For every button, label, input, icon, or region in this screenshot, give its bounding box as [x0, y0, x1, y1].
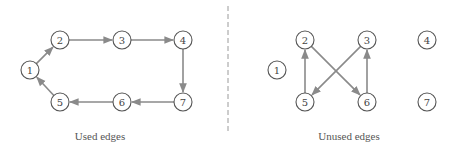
node-label: 4: [424, 35, 430, 46]
unused-edges-group: [305, 46, 367, 95]
node-used-3: 3: [113, 31, 131, 49]
node-label: 3: [364, 35, 370, 46]
node-unused-7: 7: [418, 93, 436, 111]
node-used-7: 7: [174, 93, 192, 111]
node-unused-1: 1: [268, 61, 286, 79]
graph-diagram: 1234567 Used edges 1234567 Unused edges: [0, 0, 456, 150]
node-label: 2: [57, 35, 63, 46]
node-unused-3: 3: [358, 31, 376, 49]
node-used-6: 6: [113, 93, 131, 111]
node-label: 6: [364, 97, 370, 108]
unused-edges-caption: Unused edges: [318, 130, 379, 142]
node-label: 3: [119, 35, 125, 46]
node-unused-4: 4: [418, 31, 436, 49]
used-edges-panel: 1234567 Used edges: [21, 31, 192, 142]
node-label: 7: [180, 97, 186, 108]
node-used-1: 1: [21, 61, 39, 79]
node-used-4: 4: [174, 31, 192, 49]
node-unused-2: 2: [296, 31, 314, 49]
used-edges-caption: Used edges: [75, 130, 125, 142]
node-label: 7: [424, 97, 430, 108]
node-label: 5: [302, 97, 308, 108]
node-label: 4: [180, 35, 186, 46]
edge-used-1-to-2: [36, 47, 53, 64]
node-label: 1: [274, 65, 280, 76]
node-label: 2: [302, 35, 308, 46]
node-unused-5: 5: [296, 93, 314, 111]
used-nodes-group: 1234567: [21, 31, 192, 111]
node-label: 1: [27, 65, 33, 76]
node-unused-6: 6: [358, 93, 376, 111]
node-label: 5: [57, 97, 63, 108]
unused-edges-panel: 1234567 Unused edges: [268, 31, 436, 142]
node-used-2: 2: [51, 31, 69, 49]
node-label: 6: [119, 97, 125, 108]
unused-nodes-group: 1234567: [268, 31, 436, 111]
edge-used-5-to-1: [37, 77, 54, 95]
node-used-5: 5: [51, 93, 69, 111]
